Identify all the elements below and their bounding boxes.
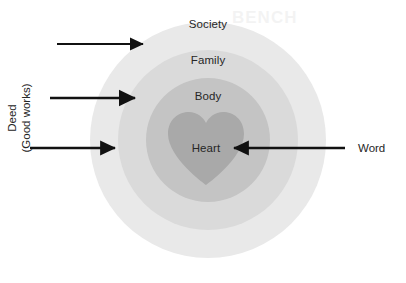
ring-label-body: Body <box>195 90 222 102</box>
ring-label-heart: Heart <box>192 142 221 154</box>
ring-label-society: Society <box>189 18 227 30</box>
annotation-label-word: Word <box>358 142 385 154</box>
deed-label-line-2: (Good works) <box>19 83 33 152</box>
diagram-root: BENCH Society Family <box>0 0 406 283</box>
annotation-label-deed: Deed (Good works) <box>5 83 34 152</box>
deed-label-line-1: Deed <box>5 83 19 152</box>
ring-label-family: Family <box>191 54 225 66</box>
